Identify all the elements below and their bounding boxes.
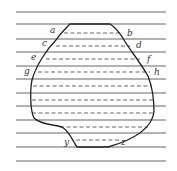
label-c: c (42, 38, 47, 48)
label-z: z (120, 137, 126, 147)
label-a: a (50, 25, 55, 35)
label-y: y (63, 137, 70, 147)
label-e: e (31, 52, 36, 62)
label-g: g (24, 66, 30, 76)
region-diagram: abcdefghyz (0, 0, 177, 171)
horizontal-lines (16, 12, 166, 161)
label-h: h (154, 67, 160, 77)
label-d: d (136, 40, 142, 50)
label-b: b (127, 28, 133, 38)
label-f: f (146, 54, 152, 64)
